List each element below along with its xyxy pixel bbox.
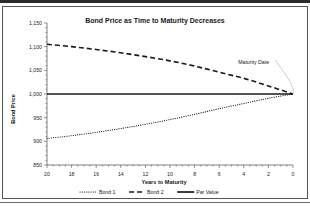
x-tick-label: 18	[69, 171, 75, 177]
series-line-bond-2	[47, 44, 293, 94]
y-axis-title: Bond Price	[10, 94, 16, 124]
y-tick-label: 1,100	[29, 44, 42, 50]
x-tick-label: 6	[218, 171, 221, 177]
legend-label-3: Par Value	[196, 189, 219, 195]
maturity-date-leader-line	[276, 60, 294, 93]
bottom-divider-rule	[0, 202, 310, 203]
x-tick-label: 12	[143, 171, 149, 177]
x-tick-label: 8	[193, 171, 196, 177]
legend-label-1: Bond 1	[99, 189, 116, 195]
y-tick-label: 1,150	[29, 20, 42, 26]
x-axis-title: Years to Maturity	[141, 179, 187, 185]
chart-legend: Bond 1Bond 2Par Value	[80, 189, 219, 195]
x-tick-label: 16	[93, 171, 99, 177]
y-tick-label: 950	[33, 115, 42, 121]
maturity-date-annotation: Maturity Date	[238, 59, 269, 65]
legend-label-2: Bond 2	[147, 189, 164, 195]
series-line-bond-1	[47, 94, 293, 138]
y-tick-label: 1,000	[29, 91, 42, 97]
y-tick-label: 1,050	[29, 67, 42, 73]
x-tick-label: 0	[292, 171, 295, 177]
top-divider-bar	[0, 0, 310, 3]
x-axis-tick-group: 20181614121086420	[44, 165, 294, 177]
x-tick-label: 10	[167, 171, 173, 177]
y-tick-label: 850	[33, 162, 42, 168]
chart-title: Bond Price as Time to Maturity Decreases	[85, 17, 225, 25]
y-axis-tick-group: 8509009501,0001,0501,1001,150	[29, 20, 47, 168]
bond-price-line-chart: Bond Price as Time to Maturity Decreases…	[2, 6, 308, 199]
y-tick-label: 900	[33, 138, 42, 144]
x-tick-label: 2	[267, 171, 270, 177]
x-tick-label: 20	[44, 171, 50, 177]
x-tick-label: 4	[242, 171, 245, 177]
x-tick-label: 14	[118, 171, 124, 177]
chart-figure: Bond Price as Time to Maturity Decreases…	[0, 0, 310, 206]
